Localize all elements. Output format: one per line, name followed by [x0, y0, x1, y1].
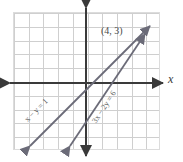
line-3x-minus-2y-equals-6 [70, 34, 145, 146]
intersection-point-label: (4, 3) [101, 25, 123, 36]
line-x-minus-y-equals-1 [30, 26, 150, 146]
graph-canvas [0, 0, 183, 162]
graph-screenshot: x (4, 3) x − y = 1 3x − 2y = 6 [0, 0, 183, 162]
x-axis-label: x [168, 72, 173, 87]
